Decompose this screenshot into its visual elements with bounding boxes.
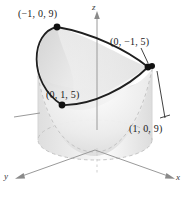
point-marker-lower bbox=[59, 102, 66, 109]
point-marker-top-left bbox=[54, 24, 61, 31]
leader-line-right-low bbox=[157, 71, 165, 118]
x-axis bbox=[95, 150, 175, 179]
math-figure-3d-saddle-cylinder: (−1, 0, 9) (0, −1, 5) (0, 1, 5) (1, 0, 9… bbox=[0, 0, 191, 198]
axis-label-z: z bbox=[92, 2, 96, 12]
point-label-top-left: (−1, 0, 9) bbox=[18, 8, 57, 19]
axis-label-y: y bbox=[4, 171, 8, 181]
point-label-right-top: (0, −1, 5) bbox=[110, 36, 149, 47]
figure-canvas bbox=[0, 0, 191, 198]
axis-label-x: x bbox=[176, 172, 180, 182]
point-label-lower: (0, 1, 5) bbox=[46, 89, 79, 100]
left-rim-tick bbox=[14, 113, 40, 117]
point-marker-right-low bbox=[149, 63, 155, 69]
leader-line-right-top bbox=[141, 48, 148, 63]
point-label-right-low: (1, 0, 9) bbox=[129, 123, 162, 134]
